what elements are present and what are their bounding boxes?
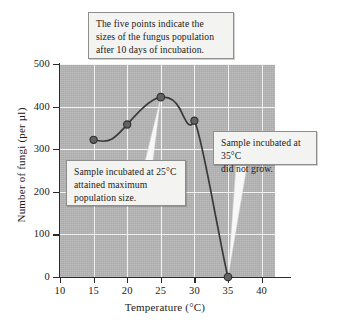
gridline-y-400 — [60, 107, 275, 108]
annotation-top-line3: after 10 days of incubation. — [96, 43, 227, 56]
x-ticklabel-15: 15 — [77, 285, 111, 296]
y-tick-500 — [53, 64, 59, 65]
x-tick-25 — [161, 277, 162, 283]
x-tick-40 — [262, 277, 263, 283]
gridline-y-500 — [60, 64, 275, 65]
y-tick-0 — [53, 277, 59, 278]
annotation-callout-top: The five points indicate the sizes of th… — [88, 12, 234, 59]
y-axis-line — [59, 63, 60, 278]
gridline-x-30 — [194, 64, 195, 277]
annotation-peak-line1: Sample incubated at 25°C — [74, 165, 179, 178]
gridline-y-100 — [60, 234, 275, 235]
x-axis-label: Temperature (°C) — [0, 301, 330, 313]
annotation-peak-line3: population size. — [74, 191, 179, 204]
x-ticklabel-35: 35 — [211, 285, 245, 296]
x-tick-20 — [127, 277, 128, 283]
annotation-top-line1: The five points indicate the — [96, 17, 227, 30]
annotation-peak-line2: attained maximum — [74, 178, 179, 191]
annotation-callout-peak: Sample incubated at 25°C attained maximu… — [66, 160, 186, 206]
x-tick-35 — [228, 277, 229, 283]
y-tick-300 — [53, 149, 59, 150]
annotation-nogrow-line1: Sample incubated at 35°C — [221, 136, 310, 162]
x-ticklabel-25: 25 — [144, 285, 178, 296]
x-ticklabel-20: 20 — [110, 285, 144, 296]
y-axis-label: Number of fungi (per µl) — [15, 65, 27, 265]
y-ticklabel-0: 0 — [10, 272, 50, 282]
annotation-callout-nogrow: Sample incubated at 35°C did not grow. — [213, 131, 317, 165]
x-ticklabel-40: 40 — [245, 285, 279, 296]
annotation-top-line2: sizes of the fungus population — [96, 30, 227, 43]
x-ticklabel-10: 10 — [43, 285, 77, 296]
y-tick-400 — [53, 107, 59, 108]
y-tick-200 — [53, 192, 59, 193]
x-tick-30 — [194, 277, 195, 283]
annotation-nogrow-line2: did not grow. — [221, 162, 310, 175]
x-ticklabel-30: 30 — [177, 285, 211, 296]
x-tick-10 — [60, 277, 61, 283]
fungus-growth-chart-figure: 500 400 300 200 100 0 10 15 20 25 30 35 … — [0, 0, 351, 323]
y-tick-100 — [53, 234, 59, 235]
x-tick-15 — [94, 277, 95, 283]
